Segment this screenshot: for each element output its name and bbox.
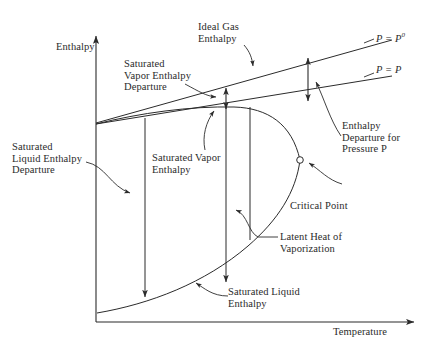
enthalpy-departure-diagram: Enthalpy Temperature Ideal Gas Enthalpy … [0, 0, 428, 353]
saturated-liquid-enthalpy-departure-label: Saturated Liquid Enthalpy Departure [12, 141, 82, 176]
pressure-isobar-label-leader [364, 73, 374, 77]
critical-point-leader [309, 163, 342, 184]
ideal-gas-isobar-label: P = P0 [376, 30, 405, 44]
latent-heat-of-vaporization-curve-leader [236, 210, 258, 237]
enthalpy-departure-for-pressure-p-leader [316, 82, 341, 136]
ideal-gas-isobar-text: P = P [376, 33, 401, 44]
saturated-vapor-enthalpy-leader [204, 111, 214, 150]
ideal-gas-enthalpy-leader [244, 45, 253, 66]
y-axis-label: Enthalpy [56, 41, 95, 53]
diagram-canvas [0, 0, 428, 353]
ideal-gas-enthalpy-label: Ideal Gas Enthalpy [198, 21, 239, 44]
critical-point-label: Critical Point [290, 200, 348, 212]
x-axis-label: Temperature [333, 326, 387, 338]
latent-heat-of-vaporization-label: Latent Heat of Vaporization [280, 231, 342, 254]
saturated-liquid-enthalpy-label: Saturated Liquid Enthalpy [228, 286, 300, 309]
ideal-gas-isobar-superscript: 0 [401, 31, 405, 39]
saturated-vapor-enthalpy-label: Saturated Vapor Enthalpy [152, 152, 221, 175]
enthalpy-departure-for-pressure-p-label: Enthalpy Departure for Pressure P [342, 120, 400, 155]
saturated-liquid-enthalpy-leader [196, 283, 228, 296]
saturated-liquid-enthalpy-departure-leader [86, 162, 130, 193]
critical-point-marker [297, 157, 304, 164]
pressure-isobar-label: P = P [376, 64, 401, 76]
ideal-gas-isobar-label-leader [364, 39, 374, 43]
saturated-vapor-enthalpy-departure-label: Saturated Vapor Enthalpy Departure [124, 58, 191, 93]
